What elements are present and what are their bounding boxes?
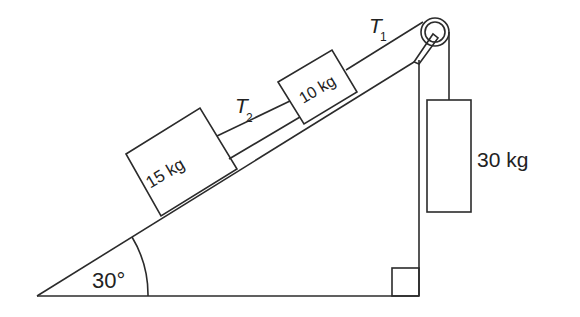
block-10kg: 10 kg: [278, 50, 357, 124]
rope-t2-bottom: [229, 117, 300, 159]
tension-t1-label: T 1: [369, 14, 387, 44]
tension-t2-label: T 2: [235, 94, 253, 125]
incline-surface: [37, 62, 414, 296]
pulley-bracket: [414, 34, 438, 64]
block-30kg: 30 kg: [427, 100, 528, 212]
pulley-hub: [425, 22, 445, 42]
incline-triangle: [37, 60, 419, 296]
block-15kg-label: 15 kg: [142, 154, 187, 192]
inclined-plane-diagram: 15 kg 10 kg 30 kg T 1 T 2 30°: [0, 0, 580, 317]
t2-subscript: 2: [246, 111, 253, 125]
rope-t2-top: [217, 101, 290, 136]
right-angle-marker: [392, 268, 419, 296]
block-10kg-label: 10 kg: [296, 72, 338, 107]
angle-label: 30°: [92, 268, 125, 293]
t1-subscript: 1: [380, 30, 387, 44]
block-30kg-label: 30 kg: [477, 148, 528, 171]
block-30kg-box: [427, 100, 471, 212]
block-15kg: 15 kg: [126, 108, 237, 216]
angle-arc: [132, 237, 148, 296]
